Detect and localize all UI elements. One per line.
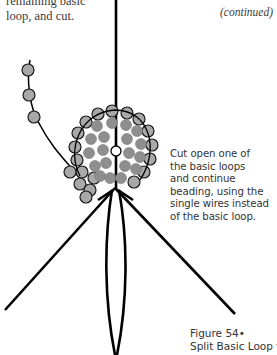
figure-title: Split Basic Loop for Leaf	[190, 340, 277, 353]
instruction-line: the basic loops	[170, 161, 277, 174]
instruction-line: of the basic loop.	[170, 211, 277, 224]
instruction-line: Cut open one of	[170, 148, 277, 161]
left-wire-beads	[22, 64, 40, 123]
instruction-line: and continue	[170, 173, 277, 186]
instruction-line: beading, using the	[170, 186, 277, 199]
figure-caption: Figure 54• Split Basic Loop for Leaf	[190, 327, 277, 352]
instruction-text: Cut open one of the basic loops and cont…	[170, 148, 277, 224]
figure-number: Figure 54•	[190, 327, 277, 340]
instruction-line: single wires instead	[170, 198, 277, 211]
center-bead	[111, 146, 121, 156]
